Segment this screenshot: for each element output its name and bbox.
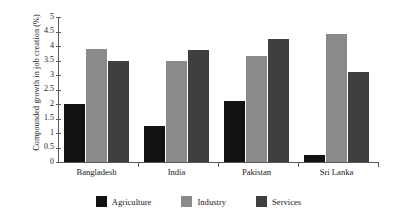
y-tick-label: 0.5 <box>44 142 54 152</box>
y-tick-label: 4 <box>50 41 54 51</box>
bar-sri-lanka-agriculture <box>304 155 325 162</box>
bar-pakistan-industry <box>246 56 267 162</box>
y-tick-label: 2 <box>50 99 54 109</box>
y-tick-mark <box>56 133 61 134</box>
y-tick-mark <box>56 162 61 163</box>
bar-india-industry <box>166 61 187 163</box>
y-axis-title: Compounded growth in job creation (%) <box>32 3 41 163</box>
y-tick-mark <box>56 17 61 18</box>
y-tick-label: 3.5 <box>44 55 54 65</box>
y-tick-label: 2.5 <box>44 84 54 94</box>
bar-bangladesh-services <box>108 61 129 163</box>
y-tick-mark <box>56 104 61 105</box>
legend-swatch-industry <box>181 196 192 207</box>
plot-area: 00.511.522.533.544.55 <box>58 17 378 162</box>
legend-swatch-agriculture <box>96 196 107 207</box>
legend-item-industry[interactable]: Industry <box>181 196 226 207</box>
bar-sri-lanka-services <box>348 72 369 162</box>
y-tick-label: 1 <box>50 128 54 138</box>
chart-legend: AgricultureIndustryServices <box>0 196 397 207</box>
legend-item-services[interactable]: Services <box>256 196 301 207</box>
y-tick-label: 0 <box>50 157 54 167</box>
legend-swatch-services <box>256 196 267 207</box>
y-tick-label: 1.5 <box>44 113 54 123</box>
bar-bangladesh-agriculture <box>64 104 85 162</box>
bar-pakistan-services <box>268 39 289 162</box>
legend-label-agriculture: Agriculture <box>112 197 152 207</box>
bar-pakistan-agriculture <box>224 101 245 162</box>
y-tick-label: 4.5 <box>44 26 54 36</box>
y-tick-mark <box>56 46 61 47</box>
bar-india-agriculture <box>144 126 165 162</box>
bar-bangladesh-industry <box>86 49 107 162</box>
bar-india-services <box>188 50 209 162</box>
y-tick-mark <box>56 119 61 120</box>
bar-sri-lanka-industry <box>326 34 347 162</box>
y-tick-mark <box>56 90 61 91</box>
y-tick-label: 5 <box>50 12 54 22</box>
y-tick-mark <box>56 61 61 62</box>
y-tick-label: 3 <box>50 70 54 80</box>
y-tick-mark <box>56 75 61 76</box>
category-label-india: India <box>132 167 222 177</box>
y-tick-mark <box>56 148 61 149</box>
legend-label-industry: Industry <box>197 197 226 207</box>
y-tick-mark <box>56 32 61 33</box>
category-label-sri-lanka: Sri Lanka <box>292 167 382 177</box>
legend-item-agriculture[interactable]: Agriculture <box>96 196 152 207</box>
legend-label-services: Services <box>272 197 301 207</box>
category-label-pakistan: Pakistan <box>212 167 302 177</box>
category-label-bangladesh: Bangladesh <box>52 167 142 177</box>
bar-chart: Compounded growth in job creation (%) 00… <box>0 0 397 223</box>
